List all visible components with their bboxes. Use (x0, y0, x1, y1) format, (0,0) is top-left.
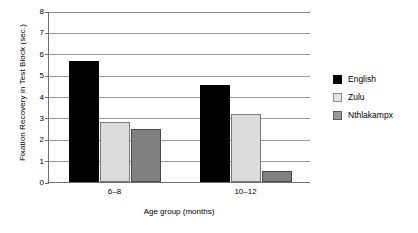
y-axis-tick-label: 1 (40, 158, 44, 166)
y-axis-tick-label: 5 (40, 72, 44, 80)
y-axis-title: Fixation Recovery in Test Block (sec.) (18, 8, 27, 178)
y-axis-tick-mark (45, 183, 49, 184)
legend-swatch-icon (333, 111, 342, 120)
bar-chart-figure: Fixation Recovery in Test Block (sec.) 0… (0, 0, 418, 233)
legend-item: English (333, 70, 393, 88)
y-axis-tick-mark (45, 54, 49, 55)
bar-english-1 (200, 85, 230, 182)
bar-english-0 (69, 61, 99, 182)
bar-zulu-1 (231, 114, 261, 182)
plot-inner: 0123456786–810–12 (49, 12, 310, 182)
y-axis-tick-mark (45, 33, 49, 34)
y-axis-tick-mark (45, 161, 49, 162)
y-axis-tick-mark (45, 118, 49, 119)
legend: English Zulu Nthlakampx (333, 70, 393, 124)
y-axis-tick-mark (45, 12, 49, 13)
y-axis-tick-mark (45, 97, 49, 98)
y-axis-tick-label: 0 (40, 179, 44, 187)
y-axis-tick-label: 2 (40, 136, 44, 144)
y-axis-tick-mark (45, 76, 49, 77)
y-axis-tick-label: 8 (40, 8, 44, 16)
legend-item-label: English (348, 75, 376, 84)
legend-item: Nthlakampx (333, 106, 393, 124)
x-axis-tick-label: 6–8 (108, 188, 121, 196)
plot-area: 0123456786–810–12 (48, 12, 310, 183)
legend-swatch-icon (333, 93, 342, 102)
bar-nthlakampx-1 (262, 171, 292, 182)
legend-swatch-icon (333, 75, 342, 84)
x-axis-tick-label: 10–12 (234, 188, 256, 196)
gridline (49, 33, 310, 34)
y-axis-tick-label: 4 (40, 94, 44, 102)
bar-zulu-0 (100, 122, 130, 182)
y-axis-tick-label: 3 (40, 115, 44, 123)
gridline (49, 54, 310, 55)
bar-nthlakampx-0 (131, 129, 161, 182)
legend-item-label: Zulu (348, 93, 365, 102)
x-axis-title: Age group (months) (48, 207, 310, 216)
legend-item: Zulu (333, 88, 393, 106)
y-axis-tick-label: 6 (40, 51, 44, 59)
gridline (49, 12, 310, 13)
y-axis-tick-mark (45, 140, 49, 141)
y-axis-tick-label: 7 (40, 29, 44, 37)
legend-item-label: Nthlakampx (348, 111, 393, 120)
